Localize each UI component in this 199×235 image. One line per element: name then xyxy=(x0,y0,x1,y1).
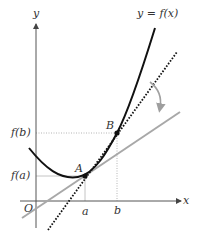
x-axis-label: x xyxy=(183,195,189,206)
y-axis-label: y xyxy=(33,8,39,19)
tick-b-label: b xyxy=(114,205,121,216)
tangent-secant-diagram: y x O y = f(x) A B a b f(a) f(b) xyxy=(0,0,199,235)
point-a xyxy=(82,173,87,178)
tick-a-label: a xyxy=(82,206,89,217)
diagram-canvas xyxy=(0,0,199,235)
fa-label: f(a) xyxy=(11,170,30,181)
fb-label: f(b) xyxy=(11,127,31,138)
point-b xyxy=(114,130,119,135)
function-curve xyxy=(29,28,155,177)
curve-label: y = f(x) xyxy=(137,8,178,19)
origin-label: O xyxy=(24,203,33,214)
point-b-label: B xyxy=(106,120,114,131)
point-a-label: A xyxy=(75,163,83,174)
